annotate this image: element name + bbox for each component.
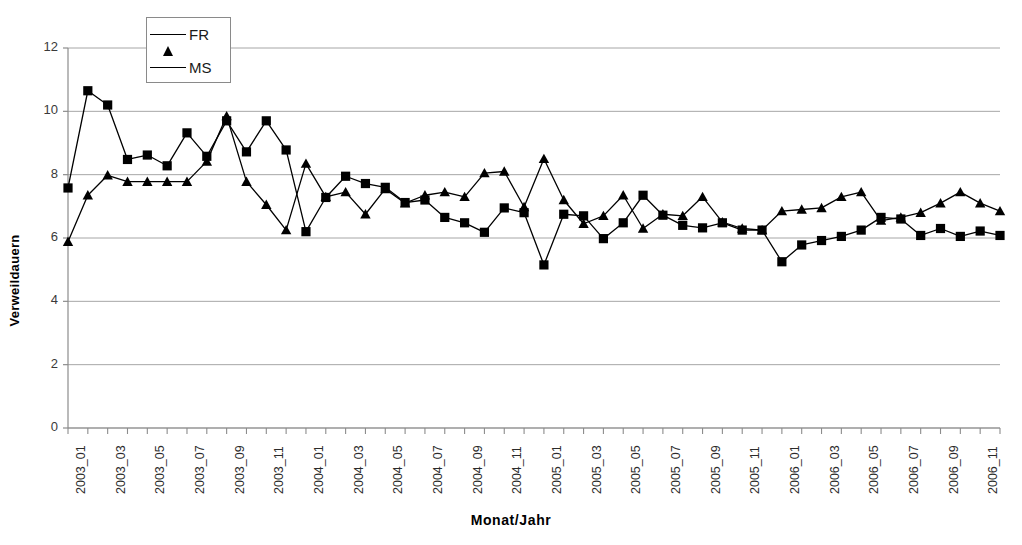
data-point-ms bbox=[401, 198, 410, 207]
y-tick-label: 0 bbox=[24, 419, 58, 434]
x-tick-label: 2004_05 bbox=[391, 445, 405, 494]
data-point-ms bbox=[301, 227, 310, 236]
data-point-ms bbox=[420, 195, 429, 204]
x-tick-label: 2005_03 bbox=[590, 445, 604, 494]
x-tick-label: 2005_09 bbox=[709, 445, 723, 494]
x-tick-label: 2006_07 bbox=[907, 445, 921, 494]
data-point-ms bbox=[242, 147, 251, 156]
x-tick-label: 2006_03 bbox=[828, 445, 842, 494]
data-point-ms bbox=[202, 152, 211, 161]
x-tick-label: 2006_11 bbox=[986, 446, 1000, 494]
x-axis-title: Monat/Jahr bbox=[0, 512, 1022, 528]
data-point-ms bbox=[341, 172, 350, 181]
data-point-ms bbox=[83, 86, 92, 95]
data-point-ms bbox=[440, 213, 449, 222]
legend-item-fr: FR bbox=[147, 18, 232, 51]
data-point-ms bbox=[480, 228, 489, 237]
y-axis-title: Verweildauern bbox=[2, 150, 26, 410]
data-point-fr bbox=[340, 187, 350, 196]
data-point-ms bbox=[936, 224, 945, 233]
data-point-ms bbox=[916, 231, 925, 240]
y-axis-title-text: Verweildauern bbox=[7, 234, 22, 326]
legend: FR MS bbox=[146, 17, 231, 83]
data-point-ms bbox=[956, 232, 965, 241]
data-point-ms bbox=[182, 128, 191, 137]
series-ms bbox=[63, 86, 1004, 269]
data-point-fr bbox=[975, 198, 985, 207]
verweildauern-line-chart: Verweildauern Monat/Jahr 024681012 2003_… bbox=[0, 0, 1022, 545]
data-point-fr bbox=[935, 198, 945, 207]
data-point-ms bbox=[321, 193, 330, 202]
data-point-ms bbox=[857, 225, 866, 234]
x-tick-label: 2003_01 bbox=[74, 445, 88, 494]
data-point-ms bbox=[837, 232, 846, 241]
data-point-fr bbox=[499, 166, 509, 175]
series-line-fr bbox=[68, 116, 1000, 242]
x-tick-label: 2005_11 bbox=[748, 446, 762, 494]
x-tick-label: 2005_05 bbox=[629, 445, 643, 494]
triangle-marker-icon bbox=[147, 25, 189, 45]
data-point-ms bbox=[678, 221, 687, 230]
y-tick-label: 10 bbox=[24, 102, 58, 117]
x-tick-label: 2004_01 bbox=[312, 445, 326, 494]
data-point-ms bbox=[361, 179, 370, 188]
data-point-fr bbox=[955, 187, 965, 196]
legend-label-fr: FR bbox=[189, 26, 209, 43]
x-tick-label: 2003_07 bbox=[193, 445, 207, 494]
data-point-ms bbox=[738, 225, 747, 234]
x-tick-label: 2005_07 bbox=[669, 445, 683, 494]
data-point-fr bbox=[995, 206, 1005, 215]
x-tick-label: 2004_07 bbox=[431, 445, 445, 494]
data-point-ms bbox=[797, 240, 806, 249]
series-line-ms bbox=[68, 91, 1000, 265]
y-tick-label: 2 bbox=[24, 356, 58, 371]
x-tick-label: 2006_01 bbox=[788, 445, 802, 494]
data-point-ms bbox=[698, 223, 707, 232]
data-point-ms bbox=[381, 183, 390, 192]
data-point-ms bbox=[63, 183, 72, 192]
x-tick-label: 2003_09 bbox=[233, 445, 247, 494]
data-point-ms bbox=[658, 211, 667, 220]
data-point-ms bbox=[559, 210, 568, 219]
data-point-ms bbox=[143, 150, 152, 159]
axes bbox=[63, 48, 1000, 434]
data-point-ms bbox=[163, 161, 172, 170]
data-point-ms bbox=[123, 155, 132, 164]
data-point-fr bbox=[697, 192, 707, 201]
data-point-ms bbox=[262, 116, 271, 125]
data-point-ms bbox=[896, 214, 905, 223]
data-point-ms bbox=[619, 218, 628, 227]
x-tick-label: 2004_03 bbox=[352, 445, 366, 494]
legend-item-ms: MS bbox=[147, 51, 232, 84]
data-point-ms bbox=[876, 213, 885, 222]
data-point-fr bbox=[440, 187, 450, 196]
data-point-fr bbox=[539, 154, 549, 163]
legend-label-ms: MS bbox=[189, 59, 212, 76]
data-point-fr bbox=[856, 187, 866, 196]
data-point-ms bbox=[539, 260, 548, 269]
x-tick-label: 2003_11 bbox=[272, 446, 286, 494]
data-point-ms bbox=[638, 191, 647, 200]
y-tick-label: 6 bbox=[24, 229, 58, 244]
data-point-fr bbox=[241, 176, 251, 185]
x-tick-label: 2005_01 bbox=[550, 445, 564, 494]
data-point-ms bbox=[599, 234, 608, 243]
data-point-fr bbox=[618, 190, 628, 199]
x-tick-label: 2004_11 bbox=[510, 446, 524, 494]
data-point-fr bbox=[816, 203, 826, 212]
data-point-fr bbox=[915, 207, 925, 216]
data-point-ms bbox=[777, 257, 786, 266]
data-point-ms bbox=[460, 218, 469, 227]
y-tick-label: 12 bbox=[24, 39, 58, 54]
data-point-ms bbox=[103, 100, 112, 109]
data-point-fr bbox=[301, 158, 311, 167]
data-point-ms bbox=[579, 211, 588, 220]
x-tick-label: 2006_05 bbox=[867, 445, 881, 494]
data-point-ms bbox=[976, 226, 985, 235]
x-tick-label: 2006_09 bbox=[947, 445, 961, 494]
square-marker-icon bbox=[147, 58, 189, 78]
data-point-ms bbox=[718, 218, 727, 227]
x-tick-label: 2003_05 bbox=[153, 445, 167, 494]
data-point-ms bbox=[222, 116, 231, 125]
data-point-ms bbox=[500, 203, 509, 212]
